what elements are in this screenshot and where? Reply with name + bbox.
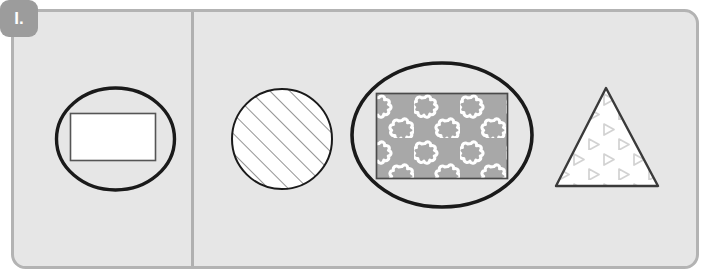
item-number-badge	[0, 0, 38, 37]
worksheet-canvas: I.	[0, 0, 710, 278]
shapes-illustration	[0, 0, 710, 278]
shape-circle-with-diagonal-hatching	[232, 89, 332, 189]
